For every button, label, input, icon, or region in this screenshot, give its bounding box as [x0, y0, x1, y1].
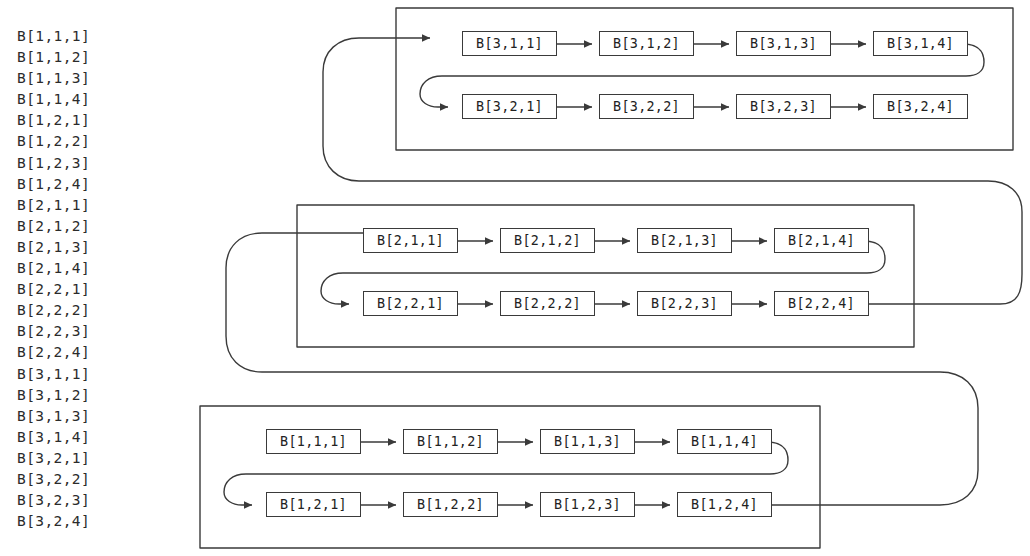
- list-item: B[1,2,3]: [17, 153, 127, 174]
- list-item: B[3,1,4]: [17, 427, 127, 448]
- list-item: B[3,2,1]: [17, 448, 127, 469]
- node-box[interactable]: B[1,2,2]: [403, 492, 498, 517]
- node-box[interactable]: B[1,1,3]: [540, 429, 635, 454]
- node-box[interactable]: B[3,1,2]: [599, 31, 694, 56]
- list-item: B[2,2,4]: [17, 342, 127, 363]
- linear-index-list: B[1,1,1] B[1,1,2] B[1,1,3] B[1,1,4] B[1,…: [17, 26, 127, 532]
- list-item: B[3,1,2]: [17, 385, 127, 406]
- list-item: B[1,1,3]: [17, 68, 127, 89]
- node-box[interactable]: B[2,1,3]: [637, 228, 732, 253]
- group-1-container: [200, 406, 820, 548]
- list-item: B[1,2,1]: [17, 110, 127, 131]
- list-item: B[1,1,2]: [17, 47, 127, 68]
- list-item: B[1,1,1]: [17, 26, 127, 47]
- wire-group1-to-group2: [226, 233, 978, 505]
- node-box[interactable]: B[1,1,4]: [677, 429, 772, 454]
- list-item: B[3,2,4]: [17, 511, 127, 532]
- node-box[interactable]: B[3,2,3]: [736, 94, 831, 119]
- node-box[interactable]: B[3,2,2]: [599, 94, 694, 119]
- list-item: B[2,2,1]: [17, 279, 127, 300]
- node-box[interactable]: B[3,1,4]: [873, 31, 968, 56]
- node-box[interactable]: B[2,1,4]: [774, 228, 869, 253]
- node-box[interactable]: B[3,2,4]: [873, 94, 968, 119]
- list-item: B[3,1,3]: [17, 406, 127, 427]
- node-box[interactable]: B[1,1,1]: [266, 429, 361, 454]
- list-item: B[2,1,3]: [17, 237, 127, 258]
- list-item: B[1,1,4]: [17, 89, 127, 110]
- group-2-container: [297, 205, 914, 347]
- list-item: B[2,1,1]: [17, 195, 127, 216]
- node-box[interactable]: B[2,2,2]: [500, 291, 595, 316]
- list-item: B[1,2,4]: [17, 174, 127, 195]
- list-item: B[2,1,4]: [17, 258, 127, 279]
- node-box[interactable]: B[2,2,3]: [637, 291, 732, 316]
- group-3-container: [396, 8, 1013, 150]
- list-item: B[2,1,2]: [17, 216, 127, 237]
- node-box[interactable]: B[1,2,1]: [266, 492, 361, 517]
- node-box[interactable]: B[2,1,2]: [500, 228, 595, 253]
- list-item: B[3,1,1]: [17, 364, 127, 385]
- list-item: B[2,2,2]: [17, 300, 127, 321]
- node-box[interactable]: B[1,1,2]: [403, 429, 498, 454]
- node-box[interactable]: B[1,2,4]: [677, 492, 772, 517]
- list-item: B[3,2,3]: [17, 490, 127, 511]
- node-box[interactable]: B[3,1,3]: [736, 31, 831, 56]
- list-item: B[1,2,2]: [17, 131, 127, 152]
- wire-group2-to-group3: [323, 38, 1022, 304]
- node-box[interactable]: B[2,1,1]: [363, 228, 458, 253]
- diagram-canvas: B[1,1,1] B[1,1,2] B[1,1,3] B[1,1,4] B[1,…: [0, 0, 1030, 556]
- node-box[interactable]: B[2,2,1]: [363, 291, 458, 316]
- node-box[interactable]: B[3,2,1]: [462, 94, 557, 119]
- node-box[interactable]: B[1,2,3]: [540, 492, 635, 517]
- list-item: B[3,2,2]: [17, 469, 127, 490]
- list-item: B[2,2,3]: [17, 321, 127, 342]
- node-box[interactable]: B[3,1,1]: [462, 31, 557, 56]
- node-box[interactable]: B[2,2,4]: [774, 291, 869, 316]
- connector-layer: [0, 0, 1030, 556]
